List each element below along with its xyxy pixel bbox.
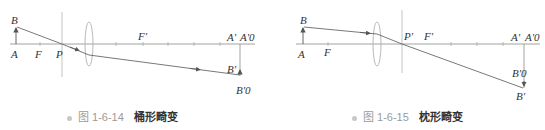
figure-pincushion-distortion: B A F P' F' A' A'0 B'0 B': [296, 10, 540, 102]
ray-direction-arrow: [360, 32, 370, 33]
caption-fig-1-6-14: 图 1-6-14桶形畸变: [67, 108, 178, 124]
label-F: F: [34, 48, 42, 60]
label-B0-prime: B'0: [236, 84, 251, 96]
label-B: B: [11, 14, 18, 26]
bullet-icon: [67, 116, 72, 121]
label-B-prime: B': [227, 63, 237, 75]
caption-title: 枕形畸变: [419, 111, 463, 124]
label-P-prime: P': [403, 30, 414, 42]
label-A0-prime: A'0: [524, 31, 540, 43]
label-A: A: [297, 48, 305, 60]
ray-direction-arrow: [70, 47, 79, 51]
chief-ray: [17, 27, 240, 75]
label-F-prime: F': [137, 30, 148, 42]
caption-title: 桶形畸变: [134, 111, 178, 124]
label-A: A: [10, 48, 18, 60]
label-F-prime: F': [423, 30, 434, 42]
label-P: P: [55, 48, 63, 60]
label-A0-prime: A'0: [239, 31, 255, 43]
caption-fig-1-6-15: 图 1-6-15枕形畸变: [352, 108, 463, 124]
bullet-icon: [352, 116, 357, 121]
label-B-prime: B': [516, 90, 526, 102]
label-B0-prime: B'0: [512, 67, 527, 79]
chief-ray: [304, 27, 523, 88]
label-A-prime: A': [226, 31, 237, 43]
label-B: B: [300, 14, 307, 26]
label-A-prime: A': [510, 31, 521, 43]
caption-number: 图 1-6-14: [78, 111, 124, 123]
figure-barrel-distortion: B A F P F' A' A'0 B' B'0: [10, 12, 255, 96]
label-F: F: [323, 46, 331, 58]
ray-direction-arrow: [190, 68, 200, 69]
caption-number: 图 1-6-15: [363, 111, 409, 123]
